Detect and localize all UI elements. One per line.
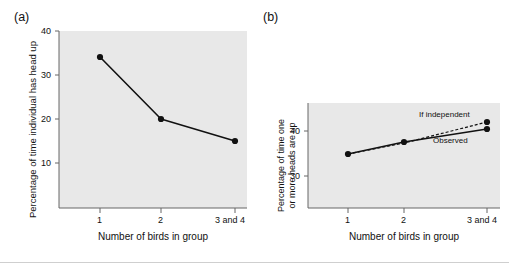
figure-container: (a) Percentage of time individual has he… [0, 0, 509, 263]
panel-b: (b) Percentage of time one or more heads… [255, 0, 509, 263]
panel-b-independent-point-3 [484, 119, 490, 125]
panel-a-data-line [100, 57, 235, 141]
panel-a-xtick-3and4: 3 and 4 [215, 215, 245, 225]
panel-a-xtick-2: 2 [158, 215, 163, 225]
panel-a-data-point-3 [232, 138, 238, 144]
panel-a-data-point-1 [97, 54, 103, 60]
panel-a-x-axis-title: Number of birds in group [59, 231, 247, 242]
panel-b-xtick-2: 2 [401, 215, 406, 225]
panel-b-xtick-3and4: 3 and 4 [467, 215, 497, 225]
panel-b-annotation-observed: Observed [433, 136, 468, 145]
panel-a-data-point-2 [158, 116, 164, 122]
panel-a: (a) Percentage of time individual has he… [0, 0, 255, 263]
panel-b-xtick-1: 1 [345, 215, 350, 225]
panel-b-observed-point-1 [345, 151, 351, 157]
panel-b-observed-point-2 [401, 139, 407, 145]
panel-b-observed-point-3 [484, 126, 490, 132]
panel-a-xtick-1: 1 [97, 215, 102, 225]
panel-b-annotation-if-independent: If independent [419, 110, 470, 119]
panel-a-plot: 1 2 3 and 4 Number of birds in group [0, 0, 255, 263]
panel-b-x-axis-title: Number of birds in group [308, 231, 500, 242]
panel-b-plot: If independent Observed 1 2 3 and 4 Numb… [255, 0, 509, 263]
